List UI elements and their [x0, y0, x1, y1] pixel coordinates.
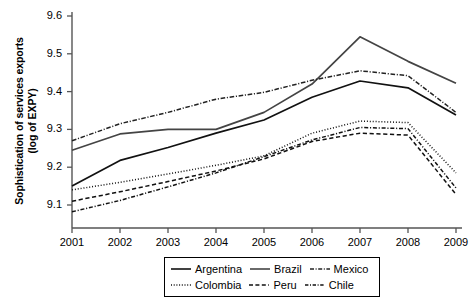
legend-item-chile[interactable]: Chile	[304, 279, 354, 291]
y-tick-label: 9.6	[28, 10, 62, 21]
series-line-mexico	[72, 71, 456, 141]
legend-swatch-mexico	[309, 264, 331, 274]
x-tick-label: 2009	[436, 237, 475, 248]
legend-item-peru[interactable]: Peru	[248, 279, 296, 291]
legend-row-1: Argentina Brazil Mexico	[170, 261, 374, 277]
legend-row-2: Colombia Peru Chile	[170, 277, 374, 293]
x-tick-label: 2006	[292, 237, 332, 248]
x-tick-label: 2004	[196, 237, 236, 248]
x-tick-label: 2002	[100, 237, 140, 248]
y-tick-label: 9.3	[28, 123, 62, 134]
legend-item-argentina[interactable]: Argentina	[170, 263, 242, 275]
legend-label-peru: Peru	[273, 279, 296, 291]
legend-label-colombia: Colombia	[195, 279, 241, 291]
legend-label-chile: Chile	[329, 279, 354, 291]
series-line-colombia	[72, 121, 456, 190]
legend-swatch-peru	[248, 280, 270, 290]
legend-swatch-argentina	[170, 264, 192, 274]
x-tick-label: 2001	[52, 237, 92, 248]
y-tick-label: 9.5	[28, 48, 62, 59]
legend-label-argentina: Argentina	[195, 263, 242, 275]
x-tick-label: 2007	[340, 237, 380, 248]
y-tick-marks	[67, 16, 72, 205]
y-tick-label: 9.4	[28, 86, 62, 97]
legend-item-mexico[interactable]: Mexico	[309, 263, 369, 275]
chart-container: Sophistication of services exports (log …	[0, 0, 475, 302]
legend-swatch-chile	[304, 280, 326, 290]
legend-swatch-colombia	[170, 280, 192, 290]
series-line-brazil	[72, 37, 456, 150]
series-line-chile	[72, 128, 456, 212]
legend: Argentina Brazil Mexico Colombia Peru	[164, 257, 380, 297]
series-line-peru	[72, 133, 456, 201]
x-tick-label: 2005	[244, 237, 284, 248]
x-tick-marks	[72, 228, 456, 233]
data-series-group	[72, 37, 456, 212]
y-tick-label: 9.2	[28, 161, 62, 172]
legend-label-mexico: Mexico	[334, 263, 369, 275]
x-tick-label: 2003	[148, 237, 188, 248]
legend-item-brazil[interactable]: Brazil	[249, 263, 302, 275]
y-tick-label: 9.1	[28, 199, 62, 210]
legend-label-brazil: Brazil	[274, 263, 302, 275]
legend-item-colombia[interactable]: Colombia	[170, 279, 241, 291]
axes	[72, 12, 462, 228]
x-tick-label: 2008	[388, 237, 428, 248]
legend-swatch-brazil	[249, 264, 271, 274]
